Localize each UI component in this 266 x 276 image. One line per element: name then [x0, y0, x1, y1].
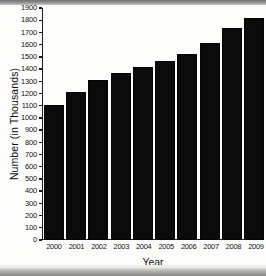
- x-axis-tick-label: 2006: [179, 242, 199, 251]
- y-axis-ticks: 0100200300400500600700800900100011001200…: [0, 8, 42, 240]
- y-axis-tick-label: 1600: [21, 40, 37, 48]
- y-axis-tick-label: 200: [25, 211, 37, 219]
- x-axis-tick-label: 2007: [201, 242, 221, 251]
- y-axis-tick-label: 100: [25, 224, 37, 232]
- x-axis-tick-label: 2008: [224, 242, 244, 251]
- bar: [66, 92, 86, 240]
- x-axis-tick-label: 2000: [44, 242, 64, 251]
- y-axis-tick-label: 1400: [21, 65, 37, 73]
- y-axis-tick-label: 600: [25, 162, 37, 170]
- scan-edge-bottom: [0, 268, 266, 276]
- y-axis-tick-label: 1700: [21, 28, 37, 36]
- y-axis-tick-label: 0: [33, 236, 37, 244]
- x-axis-tick-label: 2002: [89, 242, 109, 251]
- y-axis-tick-label: 400: [25, 187, 37, 195]
- y-axis-tick-label: 1000: [21, 114, 37, 122]
- scan-edge-top: [0, 0, 266, 5]
- bar: [111, 73, 131, 240]
- x-axis-tick-label: 2003: [111, 242, 131, 251]
- bar-series: [44, 8, 264, 240]
- y-axis-tick-label: 1300: [21, 77, 37, 85]
- y-axis-tick-label: 1900: [21, 4, 37, 12]
- x-axis-tick-label: 2009: [246, 242, 266, 251]
- y-axis-tick-label: 1500: [21, 53, 37, 61]
- bar-chart-figure: Number (in Thousands) 010020030040050060…: [0, 0, 266, 276]
- y-axis-tick-label: 1200: [21, 89, 37, 97]
- bar: [222, 28, 242, 240]
- y-axis-tick-label: 1100: [22, 101, 37, 109]
- y-axis-tick-label: 800: [25, 138, 37, 146]
- y-axis-tick-label: 1800: [21, 16, 37, 24]
- y-axis-tick-label: 300: [25, 199, 37, 207]
- bar: [44, 105, 64, 240]
- y-axis-tick-label: 500: [25, 175, 37, 183]
- x-axis-tick-label: 2001: [66, 242, 86, 251]
- bar: [133, 67, 153, 240]
- x-axis-tick-label: 2004: [134, 242, 154, 251]
- plot-area: [42, 8, 264, 240]
- x-axis-tick-labels: 2000200120022003200420052006200720082009: [44, 242, 266, 251]
- bar: [200, 43, 220, 240]
- x-axis-tick-label: 2005: [156, 242, 176, 251]
- bar: [177, 54, 197, 240]
- bar: [244, 18, 264, 240]
- y-axis-tick-label: 700: [25, 150, 37, 158]
- bar: [155, 61, 175, 240]
- y-axis-tick-label: 900: [25, 126, 37, 134]
- bar: [88, 80, 108, 240]
